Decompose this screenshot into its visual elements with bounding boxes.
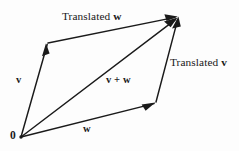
label-w: w	[83, 124, 91, 135]
vector-v-plus-w-shaft	[21, 20, 175, 137]
label-translated-v-symbol: v	[221, 56, 227, 68]
vector-addition-diagram: Translated w Translated v v + w v w 0	[0, 0, 239, 151]
vector-v-arrowhead	[42, 43, 50, 56]
vector-v-plus-w-arrow	[21, 17, 178, 137]
label-translated-w-prefix: Translated	[62, 10, 113, 22]
label-translated-v-prefix: Translated	[170, 56, 221, 68]
label-translated-w-symbol: w	[113, 10, 121, 22]
vector-v-shaft	[21, 45, 47, 138]
vector-v-arrow	[21, 43, 50, 137]
origin-point	[19, 135, 22, 138]
label-v-plus-w: v + w	[106, 75, 131, 86]
label-translated-w: Translated w	[62, 11, 121, 22]
label-v: v	[16, 75, 21, 86]
label-translated-v: Translated v	[170, 57, 227, 68]
label-origin: 0	[10, 130, 16, 142]
vector-w-arrowhead	[142, 103, 156, 111]
